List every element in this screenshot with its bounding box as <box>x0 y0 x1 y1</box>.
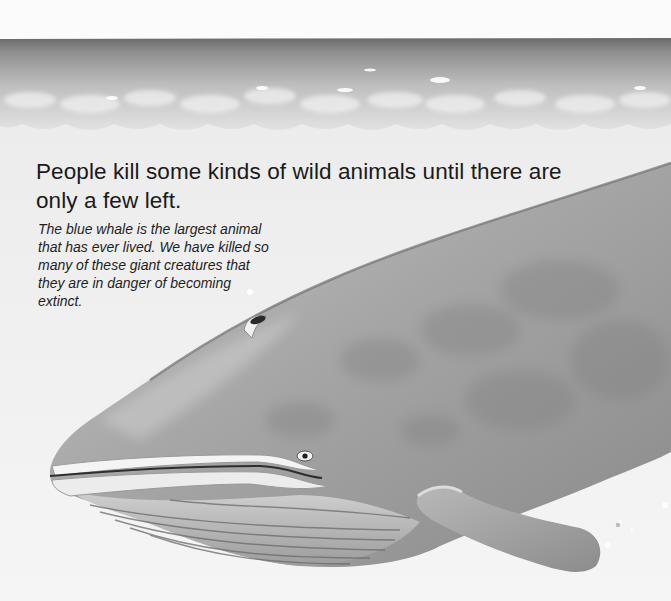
caption-line: many of these giant creatures that <box>38 256 318 274</box>
illustration-caption: The blue whale is the largest animal tha… <box>38 220 318 310</box>
caption-line: they are in danger of becoming <box>38 274 318 292</box>
caption-line: that has ever lived. We have killed so <box>38 238 318 256</box>
book-page: People kill some kinds of wild animals u… <box>0 0 671 601</box>
heading-line: People kill some kinds of wild animals u… <box>36 157 636 186</box>
page-heading: People kill some kinds of wild animals u… <box>36 157 636 215</box>
heading-line: only a few left. <box>36 186 636 215</box>
small-bubble <box>616 523 620 527</box>
caption-line: extinct. <box>38 292 318 310</box>
caption-line: The blue whale is the largest animal <box>38 220 318 238</box>
sky <box>0 0 671 40</box>
whale-eye <box>297 451 313 461</box>
sea-surface <box>0 38 671 130</box>
